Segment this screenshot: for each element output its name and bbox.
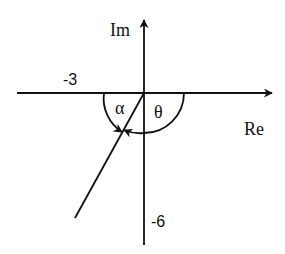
imag-tick-label: -6 — [151, 213, 165, 230]
real-axis-label: Re — [244, 119, 264, 139]
real-tick-label: -3 — [63, 71, 77, 88]
imag-axis-label: Im — [110, 20, 130, 40]
complex-plane-diagram: Im Re -3 -6 α θ — [0, 0, 285, 254]
alpha-label: α — [115, 98, 125, 118]
vector-line — [75, 93, 144, 218]
theta-label: θ — [154, 102, 163, 122]
